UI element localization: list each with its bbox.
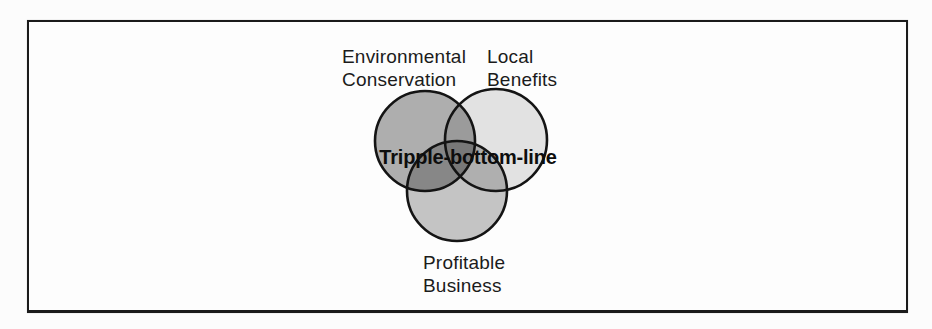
triple-bottom-line-center-label: Tripple-bottom-line bbox=[368, 146, 568, 169]
scanned-figure: Environmental Conservation Local Benefit… bbox=[0, 0, 932, 329]
local-benefits-label: Local Benefits bbox=[487, 45, 557, 91]
environmental-conservation-label: Environmental Conservation bbox=[342, 45, 466, 91]
profitable-business-label: Profitable Business bbox=[423, 251, 505, 297]
